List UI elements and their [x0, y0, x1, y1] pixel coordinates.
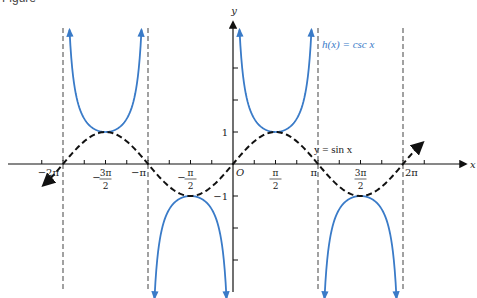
csc-branch [70, 30, 106, 132]
x-tick-label-num: π [273, 168, 279, 178]
x-tick-label: 2π [405, 167, 418, 178]
csc-branch [276, 30, 312, 132]
x-tick-label-den: 2 [103, 181, 109, 191]
x-tick-label-num: π [188, 168, 194, 178]
origin-label: O [236, 167, 244, 178]
x-tick-label: −π [131, 167, 146, 178]
x-tick-label-num: 3π [100, 168, 112, 178]
x-tick-label-den: 2 [358, 181, 364, 191]
y-axis-label: y [230, 5, 237, 16]
csc-branch [155, 196, 191, 298]
x-tick-label-sign: − [177, 172, 185, 183]
y-tick-label: −1 [213, 191, 228, 202]
csc-branch [325, 196, 361, 298]
csc-branch [191, 196, 227, 298]
csc-branch [361, 196, 397, 298]
x-tick-label: π [310, 167, 317, 178]
x-tick-label-den: 2 [273, 181, 279, 191]
x-tick-label: −2π [38, 167, 60, 178]
axis-labels: −2π−3π2−π−π2π2π3π22π1−1Oxyh(x) = csc xy … [38, 5, 476, 202]
x-axis-label: x [470, 159, 476, 170]
y-tick-label: 1 [222, 127, 228, 138]
sin-label: y = sin x [314, 143, 353, 155]
csc-label: h(x) = csc x [322, 38, 374, 51]
csc-branch [240, 30, 276, 132]
csc-branch [106, 30, 142, 132]
chart-plot: −2π−3π2−π−π2π2π3π22π1−1Oxyh(x) = csc xy … [0, 0, 477, 298]
axes [8, 22, 466, 292]
x-tick-label-num: 3π [355, 168, 367, 178]
x-tick-label-den: 2 [188, 181, 194, 191]
